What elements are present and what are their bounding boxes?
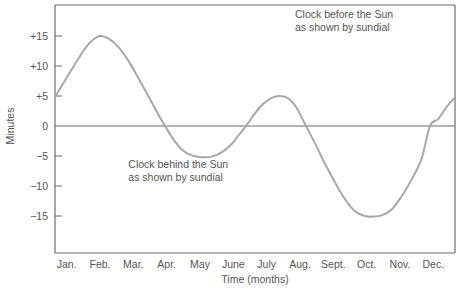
y-axis-title: Minutes bbox=[4, 108, 16, 145]
x-tick-label: June bbox=[222, 258, 245, 270]
annotation-text: Clock before the Sun bbox=[295, 8, 393, 20]
x-tick-label: Jan. bbox=[57, 258, 77, 270]
y-tick-label: +10 bbox=[30, 60, 48, 72]
x-tick-label: July bbox=[257, 258, 276, 270]
x-tick-label: Oct. bbox=[357, 258, 376, 270]
y-tick-label: 0 bbox=[42, 120, 48, 132]
x-tick-label: Mar. bbox=[123, 258, 143, 270]
x-axis-title: Time (months) bbox=[221, 273, 288, 285]
y-tick-label: −15 bbox=[30, 210, 48, 222]
annotation-text: as shown by sundial bbox=[128, 171, 223, 183]
y-tick-label: +5 bbox=[36, 90, 48, 102]
x-tick-label: Sept. bbox=[321, 258, 346, 270]
x-tick-label: Apr. bbox=[157, 258, 176, 270]
annotation-text: as shown by sundial bbox=[295, 21, 390, 33]
x-tick-label: Dec. bbox=[423, 258, 445, 270]
y-tick-label: −10 bbox=[30, 180, 48, 192]
annotation-text: Clock behind the Sun bbox=[128, 158, 228, 170]
x-tick-label: Feb. bbox=[89, 258, 110, 270]
x-tick-label: Aug. bbox=[289, 258, 311, 270]
x-tick-label: Nov. bbox=[390, 258, 411, 270]
x-tick-label: May bbox=[190, 258, 211, 270]
y-tick-label: +15 bbox=[30, 30, 48, 42]
equation-of-time-chart: +15+10+50−5−10−15 Jan.Feb.Mar.Apr.MayJun… bbox=[0, 0, 462, 297]
y-tick-label: −5 bbox=[36, 150, 48, 162]
